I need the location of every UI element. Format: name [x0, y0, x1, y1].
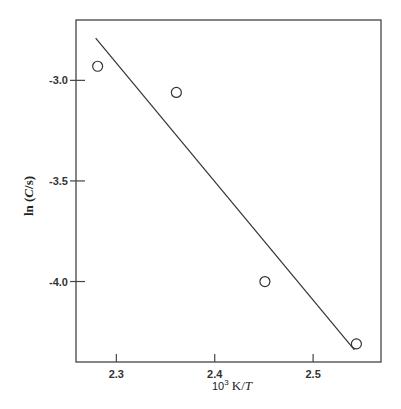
regression-line: [96, 38, 355, 350]
data-point-circle: [171, 87, 181, 97]
data-point-circle: [93, 61, 103, 71]
x-tick-label: 2.3: [109, 368, 124, 380]
data-point-circle: [351, 339, 361, 349]
x-axis-label: 103 K/T: [212, 378, 253, 393]
arrhenius-chart: 2.32.42.5 -3.0-3.5-4.0 103 K/T ln (C/s): [0, 0, 401, 409]
x-tick-label: 2.4: [207, 368, 223, 380]
y-tick-label: -3.0: [49, 74, 68, 86]
y-tick-label: -3.5: [49, 175, 68, 187]
x-tick-label: 2.5: [305, 368, 320, 380]
data-point-circle: [260, 277, 270, 287]
plot-frame: [76, 20, 381, 362]
fit-line: [96, 38, 355, 350]
data-points: [93, 61, 362, 349]
y-axis-ticks: -3.0-3.5-4.0: [49, 74, 85, 287]
y-tick-label: -4.0: [49, 276, 68, 288]
y-axis-label: ln (C/s): [21, 176, 36, 216]
x-axis-ticks: 2.32.42.5: [109, 354, 321, 380]
